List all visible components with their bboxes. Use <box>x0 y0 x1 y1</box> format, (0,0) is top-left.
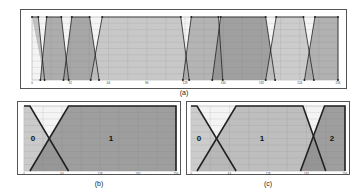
x-tick-label: 128 <box>97 172 102 176</box>
x-tick-label: 64 <box>228 172 232 176</box>
x-tick-label: 160 <box>221 81 226 85</box>
caption-c: (c) <box>264 180 272 187</box>
x-tick-label: 0 <box>190 172 192 176</box>
x-tick-label: 128 <box>182 81 187 85</box>
x-tick-label: 192 <box>259 81 264 85</box>
caption-b: (b) <box>95 180 104 187</box>
x-tick-label: 192 <box>304 172 309 176</box>
class-label-1: 1 <box>109 134 114 143</box>
x-tick-label: 192 <box>135 172 140 176</box>
x-tick-label: 256 <box>335 81 340 85</box>
class-label-0: 0 <box>197 134 202 143</box>
x-tick-label: 224 <box>297 81 302 85</box>
chart-a: 0326496128160192224256 <box>31 16 341 85</box>
x-tick-label: 0 <box>23 172 25 176</box>
chart-b: 06412819225601 <box>23 106 179 176</box>
x-tick-label: 256 <box>173 172 178 176</box>
chart-c: 064128192256012 <box>190 106 348 176</box>
x-tick-label: 64 <box>107 81 111 85</box>
x-tick-label: 256 <box>342 172 347 176</box>
class-label-1: 1 <box>260 134 265 143</box>
class-label-2: 2 <box>330 134 335 143</box>
x-tick-label: 64 <box>60 172 64 176</box>
fuzzy-membership-charts: 0326496128160192224256064128192256010641… <box>0 0 364 195</box>
x-tick-label: 128 <box>265 172 270 176</box>
x-tick-label: 96 <box>145 81 149 85</box>
caption-a: (a) <box>180 89 189 96</box>
x-tick-label: 32 <box>69 81 73 85</box>
class-label-0: 0 <box>31 134 36 143</box>
x-tick-label: 0 <box>31 81 33 85</box>
